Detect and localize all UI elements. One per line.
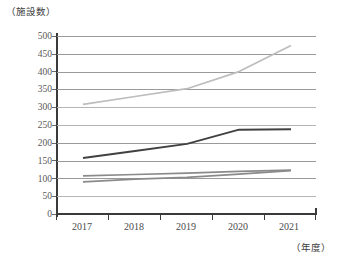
x-tick-label-2019: 2019 (163, 222, 209, 232)
x-tick-mark-3 (212, 214, 213, 220)
series-line-2 (83, 129, 291, 158)
x-tick-label-2017: 2017 (59, 222, 105, 232)
y-tick-250: 250 (18, 121, 52, 131)
y-tick-150: 150 (18, 157, 52, 167)
x-tick-mark-0 (56, 214, 57, 220)
x-tick-label-2018: 2018 (111, 222, 157, 232)
y-tick-300: 300 (18, 103, 52, 113)
x-tick-label-2021: 2021 (266, 222, 312, 232)
y-tick-400: 400 (18, 68, 52, 78)
y-axis-tick-labels: 500 450 400 350 300 250 200 150 100 50 0 (0, 0, 52, 269)
y-tick-350: 350 (18, 85, 52, 95)
x-tick-mark-5 (315, 214, 316, 220)
x-tick-label-2020: 2020 (215, 222, 261, 232)
y-tick-0: 0 (18, 210, 52, 220)
y-tick-50: 50 (18, 192, 52, 202)
x-tick-mark-2 (160, 214, 161, 220)
y-tick-450: 450 (18, 50, 52, 60)
x-axis-unit-label: （年度） (291, 240, 331, 254)
y-tick-100: 100 (18, 175, 52, 185)
x-tick-mark-4 (264, 214, 265, 220)
x-tick-mark-1 (108, 214, 109, 220)
y-tick-200: 200 (18, 139, 52, 149)
line-chart: （施設数） 500 450 400 350 300 250 200 150 10… (0, 0, 337, 269)
series-layer (57, 36, 316, 214)
series-line-1 (83, 46, 291, 105)
plot-area (57, 36, 316, 214)
y-tick-500: 500 (18, 32, 52, 42)
